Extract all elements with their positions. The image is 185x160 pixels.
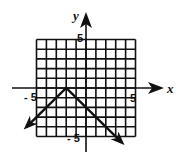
tick-label-y-neg: - 5 xyxy=(67,132,80,144)
tick-label-x-neg: - 5 xyxy=(24,91,37,103)
tick-label-x-pos: 5 xyxy=(130,92,136,104)
tick-label-y-pos: 5 xyxy=(77,32,83,44)
x-axis-label: x xyxy=(166,81,174,96)
y-axis-label: y xyxy=(71,8,79,23)
coordinate-plane: x y - 5 5 5 - 5 xyxy=(0,0,185,160)
